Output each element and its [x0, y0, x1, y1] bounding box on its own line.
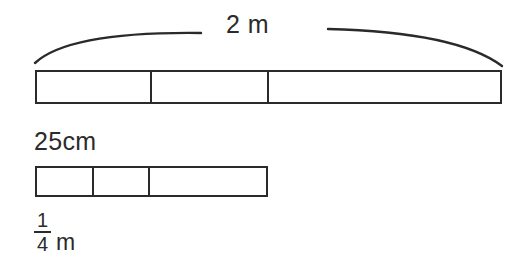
fraction-unit-label: m: [51, 231, 75, 255]
diagram-canvas: 2 m 25cm 1 4 m: [0, 0, 524, 263]
bar-bottom-cell-2: [94, 168, 150, 195]
fraction-numerator: 1: [35, 210, 50, 231]
fraction-one-quarter: 1 4: [34, 210, 51, 255]
bar-bottom-cell-3: [150, 168, 266, 195]
brace-label-2m: 2 m: [226, 11, 269, 38]
bar-top-cell-1: [37, 72, 152, 102]
bar-top: [35, 70, 502, 104]
bar-bottom-cell-1: [37, 168, 94, 195]
label-quarter-meter: 1 4 m: [34, 210, 75, 255]
bar-top-cell-2: [152, 72, 269, 102]
bar-bottom: [35, 166, 268, 197]
label-25cm: 25cm: [34, 128, 96, 155]
bar-top-cell-3: [269, 72, 500, 102]
fraction-denominator: 4: [35, 233, 50, 255]
